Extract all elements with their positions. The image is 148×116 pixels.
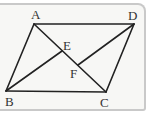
label-D: D xyxy=(128,8,137,23)
label-C: C xyxy=(100,95,109,110)
label-E: E xyxy=(63,38,71,53)
label-A: A xyxy=(31,7,41,22)
label-F: F xyxy=(70,66,77,81)
label-B: B xyxy=(5,94,14,109)
segment-BC xyxy=(6,91,106,92)
geometry-diagram: A D E F B C xyxy=(0,0,148,116)
segment-AC xyxy=(34,24,106,92)
